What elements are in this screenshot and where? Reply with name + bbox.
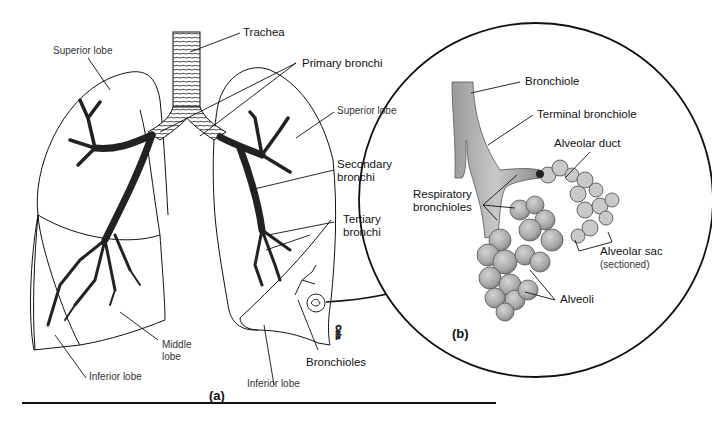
label-alveoli: Alveoli [560, 293, 594, 306]
trachea [148, 32, 226, 140]
label-terminal-bronchiole: Terminal bronchiole [537, 108, 637, 121]
label-superior-lobe-right: Superior lobe [337, 105, 396, 117]
label-inferior-lobe-right: Inferior lobe [247, 378, 300, 390]
panel-b-tag: (b) [452, 327, 469, 342]
bottom-rule [22, 402, 496, 404]
bronchiole-detail-marker: Cela [295, 265, 342, 340]
label-alveolar-duct: Alveolar duct [554, 137, 620, 150]
label-respiratory-bronchioles: Respiratory bronchioles [413, 188, 472, 214]
label-inferior-lobe-left: Inferior lobe [89, 371, 142, 383]
bronchial-tree-right [220, 112, 290, 285]
label-middle-lobe: Middle lobe [162, 339, 191, 362]
label-superior-lobe-left: Superior lobe [53, 45, 112, 57]
label-bronchiole: Bronchiole [525, 75, 579, 88]
label-trachea: Trachea [243, 26, 285, 39]
label-alveolar-sac-note: (sectioned) [600, 259, 649, 271]
panel-a-tag: (a) [209, 389, 225, 404]
label-tertiary-bronchi: Tertiary bronchi [343, 213, 381, 239]
svg-text:Cela: Cela [335, 325, 342, 340]
left-lung [31, 72, 168, 350]
label-bronchioles: Bronchioles [306, 356, 366, 369]
label-alveolar-sac: Alveolar sac [600, 245, 663, 258]
bronchial-tree-left [48, 100, 152, 325]
label-primary-bronchi: Primary bronchi [302, 57, 383, 70]
right-lung [213, 68, 335, 345]
label-secondary-bronchi: Secondary bronchi [337, 158, 392, 184]
